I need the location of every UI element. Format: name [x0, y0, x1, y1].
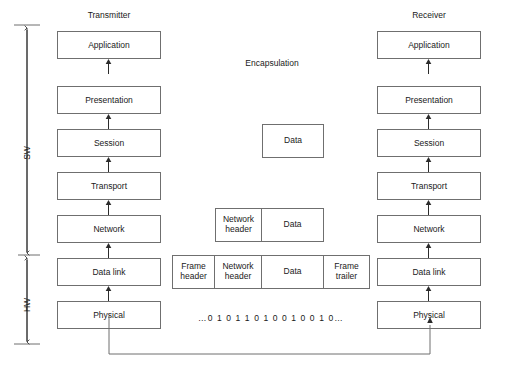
transmitter-layer-application[interactable]: Application [57, 31, 161, 59]
transmitter-arrow-network-to-transport [103, 200, 114, 215]
transmitter-arrow-session-to-presentation [103, 114, 114, 129]
receiver-layer-data-link[interactable]: Data link [377, 258, 481, 286]
encapsulation-row-data-link-frame: Frame header Network header Data Frame t… [172, 255, 370, 289]
enc-cell-network-header: Network header [215, 208, 262, 242]
osi-encapsulation-diagram: Transmitter Receiver Encapsulation SW HW… [0, 0, 506, 370]
receiver-layer-network[interactable]: Network [377, 215, 481, 243]
enc-cell-data: Data [262, 255, 324, 289]
receiver-layer-transport[interactable]: Transport [377, 172, 481, 200]
receiver-arrow-network-to-transport [423, 200, 434, 215]
bracket-label-software: SW [22, 141, 32, 165]
receiver-arrow-data-link-to-network [423, 243, 434, 258]
enc-cell-data: Data [262, 124, 324, 158]
encapsulation-row-session-data: Data [262, 124, 324, 158]
sw-hw-bracket [14, 24, 54, 346]
receiver-layer-application[interactable]: Application [377, 31, 481, 59]
transmitter-layer-presentation[interactable]: Presentation [57, 86, 161, 114]
transmitter-layer-transport[interactable]: Transport [57, 172, 161, 200]
receiver-arrow-transport-to-session [423, 157, 434, 172]
enc-cell-data: Data [262, 208, 324, 242]
encapsulation-title: Encapsulation [197, 58, 347, 68]
transmitter-title: Transmitter [57, 10, 161, 20]
receiver-arrow-session-to-presentation [423, 114, 434, 129]
receiver-title: Receiver [377, 10, 481, 20]
transmitter-arrow-transport-to-session [103, 157, 114, 172]
bracket-label-hardware: HW [22, 293, 32, 317]
transmitter-arrow-physical-to-data-link [103, 286, 114, 301]
enc-cell-frame-header: Frame header [172, 255, 215, 289]
transmitter-layer-network[interactable]: Network [57, 215, 161, 243]
receiver-layer-presentation[interactable]: Presentation [377, 86, 481, 114]
transmitter-arrow-presentation-to-application [103, 59, 114, 74]
physical-medium-link [100, 316, 440, 368]
encapsulation-row-network-packet: Network header Data [215, 208, 324, 242]
transmitter-arrow-data-link-to-network [103, 243, 114, 258]
enc-cell-frame-trailer: Frame trailer [324, 255, 370, 289]
receiver-arrow-physical-to-data-link [423, 286, 434, 301]
transmitter-layer-session[interactable]: Session [57, 129, 161, 157]
receiver-arrow-presentation-to-application [423, 59, 434, 74]
receiver-layer-session[interactable]: Session [377, 129, 481, 157]
transmitter-layer-data-link[interactable]: Data link [57, 258, 161, 286]
enc-cell-network-header: Network header [215, 255, 262, 289]
